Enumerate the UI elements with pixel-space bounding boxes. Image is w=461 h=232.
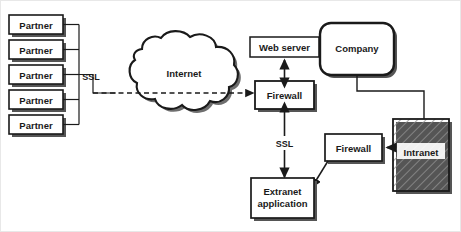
internet-cloud[interactable]: Internet xyxy=(130,31,241,113)
intranet-box[interactable]: Intranet xyxy=(393,119,452,194)
partner-label-5: Partner xyxy=(19,120,53,131)
company-box[interactable]: Company xyxy=(320,23,397,78)
internet-label: Internet xyxy=(167,68,203,79)
partner-label-1: Partner xyxy=(19,20,53,31)
extranet-application-label-line2: application xyxy=(257,198,307,209)
extranet-application-label-line1: Extranet xyxy=(263,186,302,197)
partner-label-2: Partner xyxy=(19,45,53,56)
web-server-label: Web server xyxy=(259,42,310,53)
firewall-outer-box[interactable]: Firewall xyxy=(255,81,317,112)
partner-box-3[interactable]: Partner xyxy=(9,65,66,87)
partner-box-1[interactable]: Partner xyxy=(9,15,66,37)
company-label: Company xyxy=(335,43,379,54)
partner-box-2[interactable]: Partner xyxy=(9,40,66,62)
firewall-inner-box[interactable]: Firewall xyxy=(325,134,385,164)
partner-group: Partner Partner Partner Partner Part xyxy=(9,15,66,137)
diagram-canvas: Partner Partner Partner Partner Part xyxy=(1,1,461,232)
ssl-label-partners: SSL xyxy=(82,72,100,82)
firewall-outer-label: Firewall xyxy=(267,90,302,101)
partner-box-5[interactable]: Partner xyxy=(9,115,66,137)
firewall-inner-label: Firewall xyxy=(336,143,371,154)
partner-label-4: Partner xyxy=(19,95,53,106)
intranet-label: Intranet xyxy=(404,147,440,158)
extranet-application-box[interactable]: Extranet application xyxy=(251,178,317,221)
web-server-box[interactable]: Web server xyxy=(250,37,319,57)
edge-company-intranet xyxy=(357,75,424,119)
partner-label-3: Partner xyxy=(19,70,53,81)
network-diagram: Partner Partner Partner Partner Part xyxy=(0,0,461,232)
partner-box-4[interactable]: Partner xyxy=(9,90,66,112)
ssl-label-extranet: SSL xyxy=(276,139,294,149)
